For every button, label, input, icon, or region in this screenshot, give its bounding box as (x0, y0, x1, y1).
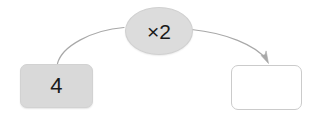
input-box[interactable]: 4 (20, 64, 93, 108)
input-box-value: 4 (50, 75, 63, 97)
operator-to-output-arrowhead (261, 51, 268, 64)
operator-bubble[interactable]: ×2 (125, 7, 193, 55)
function-machine-diagram: 4 ×2 (0, 0, 316, 120)
operator-to-output-arrow-line (192, 30, 267, 60)
output-box[interactable] (231, 65, 302, 110)
operator-label: ×2 (147, 21, 171, 42)
input-to-operator-curve (58, 28, 125, 64)
